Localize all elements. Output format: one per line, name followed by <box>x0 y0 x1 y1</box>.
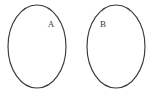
set-b-circle <box>87 5 145 88</box>
set-a-circle <box>8 5 66 88</box>
venn-diagram: A B <box>0 0 153 94</box>
venn-diagram-canvas: A B <box>0 0 153 94</box>
set-b-label: B <box>100 19 106 29</box>
set-a-label: A <box>48 19 55 29</box>
